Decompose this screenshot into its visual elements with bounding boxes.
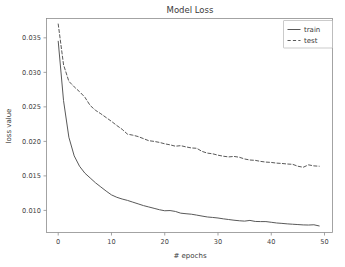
series-line-test [58,24,319,167]
y-axis-ticks: 0.0100.0150.0200.0250.0300.035 [22,34,46,215]
x-axis-ticks: 01020304050 [56,233,329,246]
chart-legend[interactable]: traintest [284,21,333,49]
legend-label-test[interactable]: test [304,37,318,45]
plot-frame [47,19,333,233]
x-tick-label: 0 [56,238,60,246]
y-tick-label: 0.030 [22,69,41,77]
y-axis-label: loss value [5,109,13,144]
x-tick-label: 10 [107,238,115,246]
x-tick-label: 20 [161,238,169,246]
y-tick-label: 0.035 [22,34,41,42]
figure-canvas: Model Loss 0.0100.0150.0200.0250.0300.03… [0,0,345,267]
legend-label-train[interactable]: train [304,26,320,34]
series-line-train [58,41,319,226]
x-tick-label: 50 [320,238,328,246]
chart-title: Model Loss [167,5,214,15]
x-axis-label: # epochs [173,252,206,260]
data-series-group [58,24,319,226]
x-tick-label: 40 [267,238,275,246]
model-loss-chart: Model Loss 0.0100.0150.0200.0250.0300.03… [0,0,345,267]
y-tick-label: 0.010 [22,207,41,215]
x-tick-label: 30 [214,238,222,246]
y-tick-label: 0.015 [22,172,41,180]
y-tick-label: 0.020 [22,138,41,146]
y-tick-label: 0.025 [22,103,41,111]
